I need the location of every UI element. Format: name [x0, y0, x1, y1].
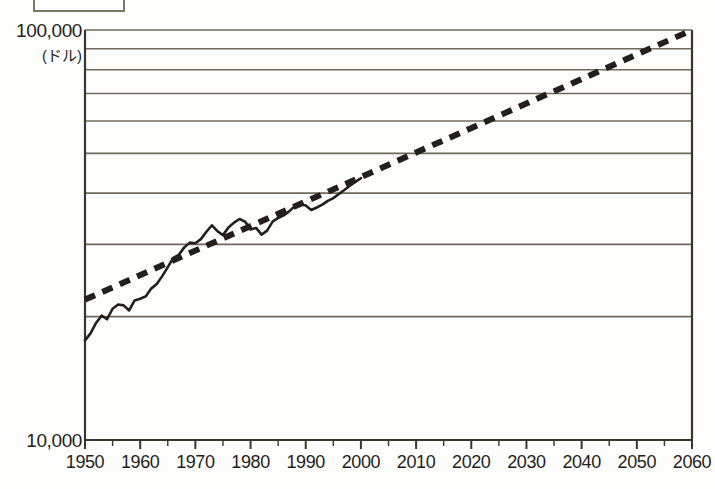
- chart-svg: [0, 0, 715, 489]
- x-axis-tick-label: 2050: [618, 452, 656, 473]
- x-axis-tick-label: 1960: [121, 452, 159, 473]
- x-axis-tick-label: 2040: [562, 452, 600, 473]
- x-axis-tick-label: 2020: [452, 452, 490, 473]
- x-axis-tick-label: 2060: [673, 452, 711, 473]
- x-axis-tick-label: 2000: [342, 452, 380, 473]
- x-axis-tick-label: 1970: [176, 452, 214, 473]
- x-axis-tick-label: 2010: [397, 452, 435, 473]
- gridlines: [85, 30, 692, 317]
- chart-page: 100,000 (ドル) 10,000 19501960197019801990…: [0, 0, 715, 489]
- x-axis-ticks: [85, 440, 692, 449]
- x-axis-tick-label: 1990: [286, 452, 324, 473]
- x-axis-tick-label: 1980: [231, 452, 269, 473]
- x-axis-tick-label: 2030: [507, 452, 545, 473]
- x-axis-tick-label: 1950: [66, 452, 104, 473]
